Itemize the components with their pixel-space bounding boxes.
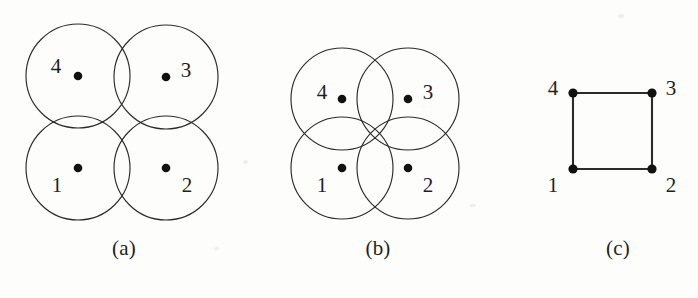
panel-a-diagram: 4 3 1 2	[0, 0, 248, 236]
graph-vertex-2	[647, 164, 656, 173]
center-dot-4	[74, 72, 83, 81]
scan-speck	[243, 160, 248, 164]
scan-speck	[470, 204, 476, 207]
graph-label-4: 4	[548, 76, 559, 100]
center-dot-1	[338, 164, 347, 173]
label-group-a: 4 3 1 2	[51, 54, 193, 197]
disk-label-1: 1	[52, 173, 63, 197]
panel-b-diagram: 4 3 1 2	[240, 0, 516, 236]
panel-a-caption: (a)	[0, 236, 248, 261]
center-dot-3	[162, 73, 171, 82]
graph-edge-group	[573, 93, 652, 169]
center-dot-group-a	[74, 72, 171, 173]
graph-vertex-1	[568, 164, 577, 173]
panel-c-caption: (c)	[490, 236, 698, 261]
panel-b-caption: (b)	[240, 236, 516, 261]
disk-label-2: 2	[182, 173, 193, 197]
center-dot-4	[338, 95, 347, 104]
disk-label-3: 3	[181, 58, 192, 82]
panel-c: 4 3 1 2 (c)	[490, 0, 698, 298]
disk-label-1: 1	[317, 173, 328, 197]
scan-speck	[214, 247, 219, 250]
center-dot-2	[404, 164, 413, 173]
center-dot-3	[404, 95, 413, 104]
center-dot-2	[162, 164, 171, 173]
disk-label-4: 4	[51, 54, 62, 78]
graph-label-2: 2	[666, 173, 677, 197]
figure-root: 4 3 1 2 (a) 4 3	[0, 0, 698, 298]
center-dot-group-b	[338, 95, 413, 173]
disk-label-2: 2	[423, 173, 434, 197]
scan-speck	[618, 14, 624, 18]
graph-label-1: 1	[548, 173, 559, 197]
graph-label-group: 4 3 1 2	[548, 76, 677, 197]
graph-vertex-4	[568, 88, 577, 97]
panel-b: 4 3 1 2 (b)	[240, 0, 490, 298]
graph-vertex-group	[568, 88, 656, 173]
disk-label-3: 3	[423, 80, 434, 104]
panel-a: 4 3 1 2 (a)	[0, 0, 240, 298]
panel-c-graph: 4 3 1 2	[490, 0, 698, 236]
disk-label-4: 4	[317, 80, 328, 104]
graph-label-3: 3	[666, 76, 677, 100]
graph-vertex-3	[647, 88, 656, 97]
center-dot-1	[74, 164, 83, 173]
